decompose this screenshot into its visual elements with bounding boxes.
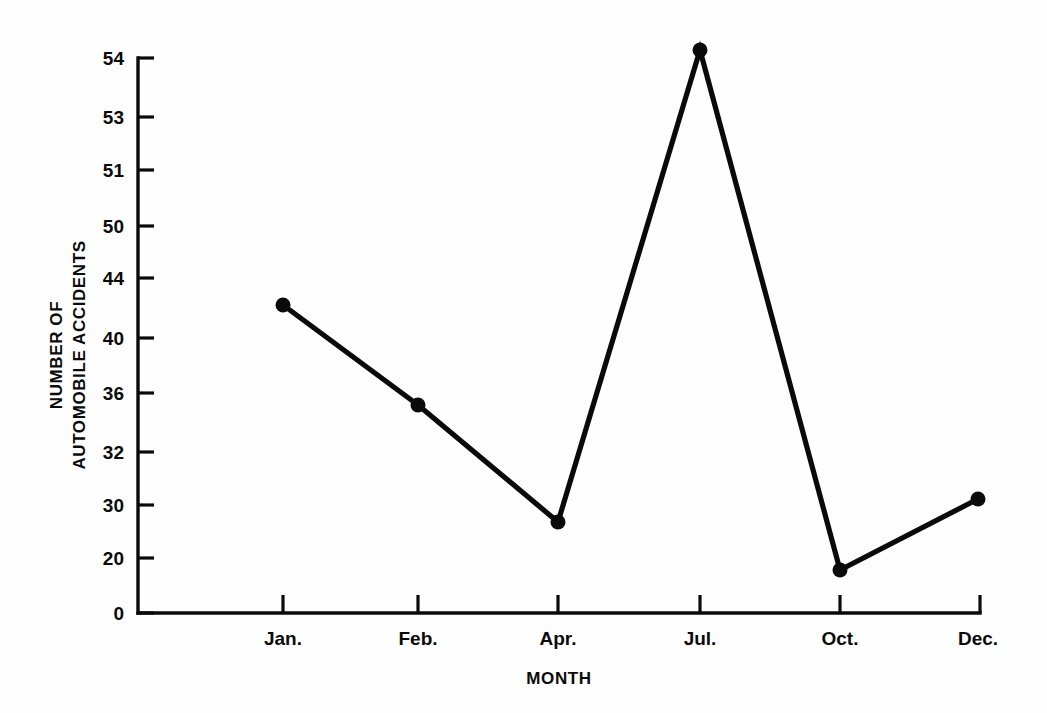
x-axis-title: MONTH (526, 669, 591, 688)
line-chart: 545351504440363230200 Jan.Feb.Apr.Jul.Oc… (0, 0, 1047, 713)
y-tick-label: 44 (103, 268, 125, 289)
y-tick-label: 51 (103, 160, 125, 181)
data-point-marker (411, 398, 426, 413)
y-tick-label: 53 (103, 107, 124, 128)
data-point-marker (693, 43, 708, 58)
y-tick-label: 20 (103, 548, 124, 569)
x-tick-label: Feb. (398, 628, 437, 649)
x-tick-label: Dec. (958, 628, 998, 649)
y-tick-label: 30 (103, 495, 124, 516)
data-point-marker (833, 563, 848, 578)
data-point-marker (971, 492, 986, 507)
chart-background (0, 0, 1047, 713)
y-axis-title-line-2: AUTOMOBILE ACCIDENTS (70, 240, 89, 469)
data-point-marker (276, 298, 291, 313)
y-tick-label: 50 (103, 216, 124, 237)
y-axis-title-line-1: NUMBER OF (47, 301, 66, 409)
chart-figure: 545351504440363230200 Jan.Feb.Apr.Jul.Oc… (0, 0, 1047, 713)
data-point-marker (551, 515, 566, 530)
y-tick-label: 36 (103, 383, 124, 404)
y-tick-label: 32 (103, 442, 124, 463)
x-tick-label: Oct. (822, 628, 859, 649)
x-tick-label: Apr. (540, 628, 577, 649)
y-tick-label: 40 (103, 328, 124, 349)
x-tick-label: Jul. (684, 628, 717, 649)
y-tick-label: 54 (103, 48, 125, 69)
x-tick-label: Jan. (264, 628, 302, 649)
y-tick-label: 0 (113, 603, 124, 624)
